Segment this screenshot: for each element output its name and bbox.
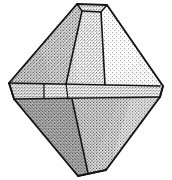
crystal-figure: Octahedral crystal [0,0,172,180]
crystal-illustration [0,0,172,180]
apex-face-edge [82,11,101,12]
